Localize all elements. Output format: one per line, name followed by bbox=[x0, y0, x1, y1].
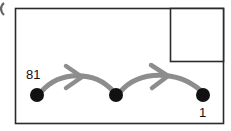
diagram-canvas: 81 1 bbox=[0, 0, 231, 131]
node-1-label: 81 bbox=[26, 67, 40, 82]
cropped-arc-fragment-icon bbox=[1, 3, 4, 15]
inset-panel bbox=[171, 9, 224, 62]
node-1 bbox=[30, 88, 44, 102]
diagram-svg: 81 1 bbox=[0, 0, 231, 131]
node-3 bbox=[196, 88, 210, 102]
node-2 bbox=[109, 88, 123, 102]
node-3-label: 1 bbox=[199, 105, 206, 120]
